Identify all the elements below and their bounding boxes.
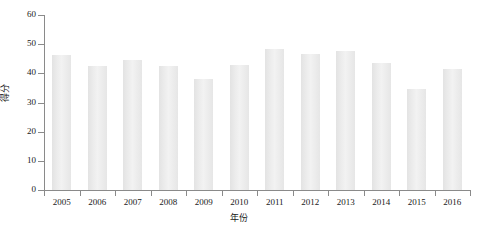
- x-tick-9: [364, 191, 365, 196]
- x-tick-label-2012: 2012: [293, 198, 329, 207]
- bar-2006: [88, 66, 107, 190]
- bar-chart: 0102030405060 20052006200720082009201020…: [0, 0, 478, 239]
- x-tick-label-2013: 2013: [328, 198, 364, 207]
- x-tick-end: [470, 191, 471, 196]
- x-tick-2: [115, 191, 116, 196]
- x-tick-4: [186, 191, 187, 196]
- bar-2011: [265, 49, 284, 190]
- x-tick-label-2016: 2016: [435, 198, 471, 207]
- x-tick-label-2009: 2009: [186, 198, 222, 207]
- y-tick-label-10: 10: [0, 156, 36, 165]
- bar-2010: [230, 65, 249, 190]
- x-tick-3: [151, 191, 152, 196]
- y-tick-label-0: 0: [0, 185, 36, 194]
- x-tick-0: [44, 191, 45, 196]
- bar-2008: [159, 66, 178, 190]
- bar-2009: [194, 79, 213, 190]
- bar-2007: [123, 60, 142, 190]
- bar-2016: [443, 69, 462, 190]
- x-tick-label-2006: 2006: [80, 198, 116, 207]
- x-tick-11: [435, 191, 436, 196]
- bar-2005: [52, 55, 71, 190]
- x-tick-8: [328, 191, 329, 196]
- x-tick-label-2010: 2010: [222, 198, 258, 207]
- y-axis-title: 得分: [1, 84, 10, 102]
- bar-2015: [407, 89, 426, 191]
- x-tick-7: [293, 191, 294, 196]
- bar-2014: [372, 63, 391, 190]
- y-tick-label-40: 40: [0, 68, 36, 77]
- x-tick-label-2014: 2014: [364, 198, 400, 207]
- x-tick-1: [80, 191, 81, 196]
- x-axis-title: 年份: [0, 214, 478, 223]
- bar-2012: [301, 54, 320, 190]
- x-tick-label-2005: 2005: [44, 198, 80, 207]
- x-tick-label-2015: 2015: [399, 198, 435, 207]
- x-tick-5: [222, 191, 223, 196]
- x-tick-6: [257, 191, 258, 196]
- x-tick-label-2007: 2007: [115, 198, 151, 207]
- x-tick-label-2008: 2008: [151, 198, 187, 207]
- y-tick-label-60: 60: [0, 10, 36, 19]
- x-tick-label-2011: 2011: [257, 198, 293, 207]
- y-tick-label-50: 50: [0, 39, 36, 48]
- y-tick-label-20: 20: [0, 127, 36, 136]
- bar-2013: [336, 51, 355, 190]
- x-tick-10: [399, 191, 400, 196]
- plot-area: [44, 15, 470, 190]
